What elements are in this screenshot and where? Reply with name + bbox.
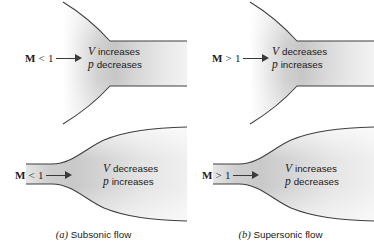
mach-label-text: M > 1 (202, 169, 231, 181)
right-arrow-icon (243, 54, 269, 63)
nozzle-flow-figure: M < 1 V increases p decreases (0, 0, 374, 252)
annotation-line-2: p decreases (88, 58, 142, 71)
velocity-symbol: V (285, 162, 292, 174)
right-arrow-icon (46, 171, 72, 180)
annotation-line-2: p decreases (285, 175, 339, 188)
annotation-line-1: V increases (88, 45, 142, 58)
pressure-trend: increases (281, 59, 323, 70)
caption-label: Subsonic flow (71, 229, 131, 240)
arrow-shaft (243, 58, 264, 59)
mach-symbol: M (202, 169, 213, 181)
mach-symbol: M (25, 52, 36, 64)
mach-symbol: M (15, 169, 26, 181)
annotation-line-1: V decreases (272, 45, 327, 58)
mach-label-text: M > 1 (212, 52, 241, 64)
pressure-symbol: p (272, 58, 278, 70)
annotation-top-right: V decreases p increases (272, 45, 327, 71)
mach-relation: > 1 (226, 52, 241, 64)
velocity-trend: increases (98, 46, 140, 57)
caption-tag: (b) (238, 229, 250, 240)
pressure-symbol: p (103, 175, 109, 187)
mach-relation: < 1 (39, 52, 54, 64)
pressure-trend: increases (112, 176, 154, 187)
arrow-shaft (233, 175, 254, 176)
arrow-head (262, 54, 269, 62)
mach-label-bottom-left: M < 1 (15, 169, 72, 181)
panel-top-left: M < 1 V increases p decreases (0, 0, 187, 126)
velocity-trend: increases (295, 163, 337, 174)
annotation-line-1: V increases (285, 162, 339, 175)
right-arrow-icon (233, 171, 259, 180)
annotation-top-left: V increases p decreases (88, 45, 142, 71)
mach-label-top-left: M < 1 (25, 52, 82, 64)
mach-symbol: M (212, 52, 223, 64)
mach-relation: < 1 (29, 169, 44, 181)
velocity-trend: decreases (282, 46, 327, 57)
pressure-symbol: p (88, 58, 94, 70)
annotation-bottom-right: V increases p decreases (285, 162, 339, 188)
annotation-bottom-left: V decreases p increases (103, 162, 158, 188)
arrow-head (75, 54, 82, 62)
caption-supersonic: (b) Supersonic flow (187, 229, 374, 240)
right-arrow-icon (56, 54, 82, 63)
mach-label-text: M < 1 (15, 169, 44, 181)
annotation-line-1: V decreases (103, 162, 158, 175)
arrow-shaft (46, 175, 67, 176)
mach-relation: > 1 (216, 169, 231, 181)
mach-label-top-right: M > 1 (212, 52, 269, 64)
caption-subsonic: (a) Subsonic flow (0, 229, 187, 240)
caption-label: Supersonic flow (253, 229, 322, 240)
annotation-line-2: p increases (103, 175, 158, 188)
mach-label-bottom-right: M > 1 (202, 169, 259, 181)
velocity-symbol: V (88, 45, 95, 57)
velocity-symbol: V (272, 45, 279, 57)
pressure-trend: decreases (294, 176, 339, 187)
velocity-trend: decreases (113, 163, 158, 174)
panel-top-right: M > 1 V decreases p increases (187, 0, 374, 126)
pressure-trend: decreases (97, 59, 142, 70)
mach-label-text: M < 1 (25, 52, 54, 64)
caption-tag: (a) (56, 229, 68, 240)
pressure-symbol: p (285, 175, 291, 187)
arrow-head (65, 171, 72, 179)
annotation-line-2: p increases (272, 58, 327, 71)
velocity-symbol: V (103, 162, 110, 174)
arrow-head (252, 171, 259, 179)
arrow-shaft (56, 58, 77, 59)
